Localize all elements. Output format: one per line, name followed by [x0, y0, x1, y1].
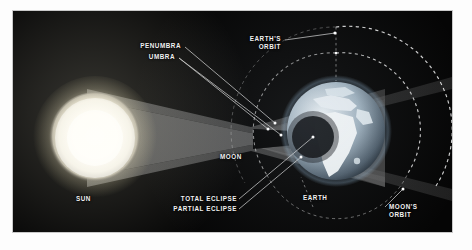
eclipse-diagram-panel: PENUMBRA UMBRA EARTH'S ORBIT MOON SUN TO… — [13, 11, 452, 232]
label-umbra: UMBRA — [101, 53, 175, 61]
label-partial-eclipse: PARTIAL ECLIPSE — [149, 205, 237, 213]
label-earths-orbit-line2: ORBIT — [209, 43, 281, 51]
sun-body — [33, 76, 157, 200]
label-total-eclipse: TOTAL ECLIPSE — [159, 195, 237, 203]
label-sun: SUN — [76, 195, 116, 203]
label-penumbra: PENUMBRA — [101, 42, 181, 50]
label-moon: MOON — [220, 153, 270, 161]
earth-body — [280, 75, 418, 187]
label-earth: EARTH — [303, 194, 349, 202]
label-moons-orbit-line2: ORBIT — [389, 211, 449, 219]
diagram-stage: PENUMBRA UMBRA EARTH'S ORBIT MOON SUN TO… — [0, 0, 472, 250]
